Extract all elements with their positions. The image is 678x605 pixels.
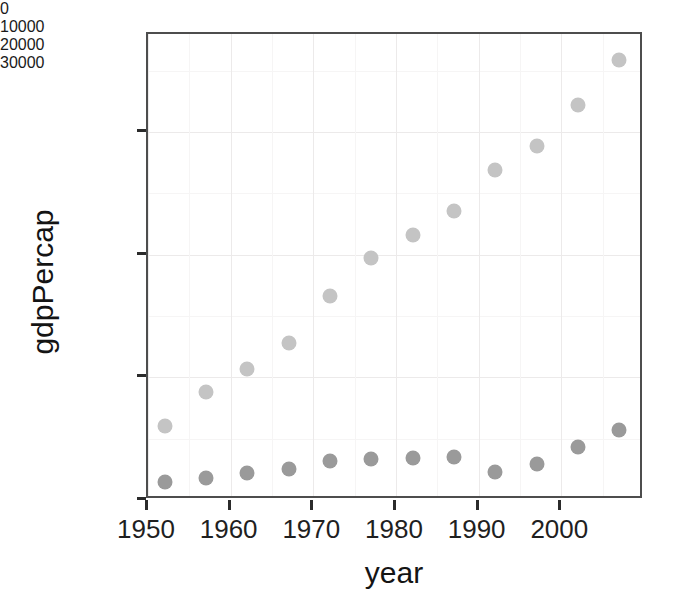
data-point xyxy=(612,52,627,67)
x-axis-tick-mark xyxy=(393,500,396,510)
y-axis-tick-label: 30000 xyxy=(0,54,128,72)
data-point xyxy=(612,423,627,438)
data-point xyxy=(281,461,296,476)
gridline-vertical-major xyxy=(148,34,149,496)
data-point xyxy=(364,251,379,266)
data-point xyxy=(488,464,503,479)
data-point xyxy=(364,451,379,466)
x-axis-tick-mark xyxy=(558,500,561,510)
gridline-vertical-major xyxy=(561,34,562,496)
y-axis-tick-label: 0 xyxy=(0,0,128,18)
gridline-horizontal-minor xyxy=(148,439,640,440)
data-point xyxy=(157,474,172,489)
x-axis-title: year xyxy=(146,556,642,590)
y-axis-tick-mark xyxy=(137,252,146,255)
x-axis-tick-label: 1950 xyxy=(117,514,175,545)
y-axis-tick-label: 20000 xyxy=(0,36,128,54)
gridline-vertical-minor xyxy=(189,34,190,496)
x-axis-tick-label: 1990 xyxy=(448,514,506,545)
data-point xyxy=(529,138,544,153)
gridline-horizontal-minor xyxy=(148,316,640,317)
gridline-vertical-major xyxy=(313,34,314,496)
gridline-vertical-major xyxy=(231,34,232,496)
scatter-plot-figure: 0100002000030000 gdpPercap 1950196019701… xyxy=(0,0,678,605)
data-point xyxy=(405,450,420,465)
data-point xyxy=(157,419,172,434)
gridline-horizontal-minor xyxy=(148,71,640,72)
data-point xyxy=(240,466,255,481)
x-axis-tick-label: 1960 xyxy=(200,514,258,545)
gridline-vertical-minor xyxy=(355,34,356,496)
x-axis-tick-mark xyxy=(310,500,313,510)
x-axis-tick-mark xyxy=(476,500,479,510)
data-point xyxy=(529,456,544,471)
gridline-vertical-minor xyxy=(520,34,521,496)
data-point xyxy=(405,228,420,243)
plot-panel xyxy=(146,32,642,498)
data-point xyxy=(446,203,461,218)
data-point xyxy=(198,385,213,400)
y-axis-title: gdpPercap xyxy=(26,152,60,412)
data-point xyxy=(322,454,337,469)
gridline-vertical-minor xyxy=(272,34,273,496)
y-axis-tick-mark xyxy=(137,374,146,377)
gridline-horizontal-major xyxy=(148,132,640,133)
y-axis-tick-mark xyxy=(137,129,146,132)
gridline-horizontal-major xyxy=(148,255,640,256)
x-axis-tick-label: 1970 xyxy=(282,514,340,545)
data-point xyxy=(322,289,337,304)
gridline-horizontal-major xyxy=(148,377,640,378)
x-axis-tick-label: 1980 xyxy=(365,514,423,545)
x-axis-tick-mark xyxy=(145,500,148,510)
data-point xyxy=(570,439,585,454)
data-point xyxy=(446,450,461,465)
data-point xyxy=(198,470,213,485)
gridline-horizontal-minor xyxy=(148,193,640,194)
y-axis-tick-label: 10000 xyxy=(0,18,128,36)
data-point xyxy=(570,98,585,113)
gridline-vertical-minor xyxy=(437,34,438,496)
gridline-vertical-major xyxy=(479,34,480,496)
x-axis-tick-mark xyxy=(228,500,231,510)
plot-area xyxy=(148,34,640,496)
data-point xyxy=(281,336,296,351)
gridline-vertical-minor xyxy=(603,34,604,496)
x-axis-tick-label: 2000 xyxy=(530,514,588,545)
y-axis-tick-label-group: 0100002000030000 xyxy=(0,0,128,605)
data-point xyxy=(240,361,255,376)
data-point xyxy=(488,163,503,178)
gridline-vertical-major xyxy=(396,34,397,496)
